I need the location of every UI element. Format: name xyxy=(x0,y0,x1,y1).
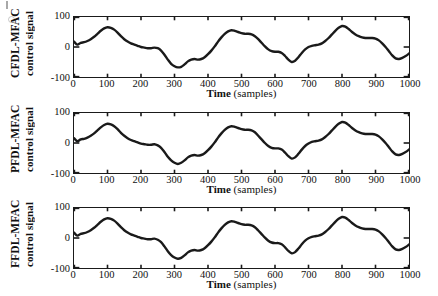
y-tick-0: 0 xyxy=(40,233,70,244)
plot-area-ffdl xyxy=(73,207,410,269)
y-tick-100: 100 xyxy=(40,202,70,213)
x-axis-label-rest: (samples) xyxy=(231,278,277,290)
plot-area-cfdl xyxy=(73,16,410,78)
plot-svg-pfdl xyxy=(74,113,409,173)
x-axis-label-ffdl: Time (samples) xyxy=(73,278,410,290)
chart-panel-pfdl: PFDL-MFAC control signal 100 0 -100 0100… xyxy=(0,98,438,194)
tick-marks-ffdl xyxy=(74,208,409,268)
y-tick-100: 100 xyxy=(40,107,70,118)
y-axis-label-line1: FFDL-MFAC xyxy=(10,197,22,271)
plot-svg-ffdl xyxy=(74,208,409,268)
y-tick-labels-ffdl: 100 0 -100 xyxy=(36,207,70,269)
y-axis-label-line1: PFDL-MFAC xyxy=(10,102,22,176)
plot-svg-cfdl xyxy=(74,17,409,77)
y-tick-0: 0 xyxy=(40,42,70,53)
y-tick-labels-pfdl: 100 0 -100 xyxy=(36,112,70,174)
data-curve-cfdl xyxy=(74,26,409,67)
tick-marks-pfdl xyxy=(74,113,409,173)
chart-panel-ffdl: FFDL-MFAC control signal 100 0 -100 0100… xyxy=(0,193,438,289)
x-axis-label-bold: Time xyxy=(207,278,231,290)
y-axis-label-line2: control signal xyxy=(24,197,35,271)
data-curve-pfdl xyxy=(74,122,409,164)
y-tick-100: 100 xyxy=(40,11,70,22)
y-axis-label-line2: control signal xyxy=(24,6,35,80)
figure-canvas: CFDL-MFAC control signal 100 0 -100 0100… xyxy=(0,0,438,296)
y-tick-minus100: -100 xyxy=(40,73,70,84)
y-tick-labels-cfdl: 100 0 -100 xyxy=(36,16,70,78)
plot-area-pfdl xyxy=(73,112,410,174)
y-axis-label-line2: control signal xyxy=(24,102,35,176)
y-tick-minus100: -100 xyxy=(40,264,70,275)
data-curve-ffdl xyxy=(74,217,409,259)
y-axis-label-line1: CFDL-MFAC xyxy=(10,6,22,80)
tick-marks-cfdl xyxy=(74,17,409,77)
y-tick-0: 0 xyxy=(40,138,70,149)
y-tick-minus100: -100 xyxy=(40,169,70,180)
chart-panel-cfdl: CFDL-MFAC control signal 100 0 -100 0100… xyxy=(0,2,438,98)
